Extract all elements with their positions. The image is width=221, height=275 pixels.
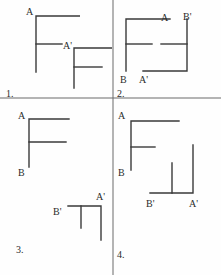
- figure-drawing: [0, 0, 221, 275]
- panel-3-label-a-prime: A': [96, 192, 105, 202]
- panel-number-4: 4.: [117, 250, 125, 260]
- panel-1-shape-a-prime: [74, 48, 112, 88]
- panel-1-label-a: A: [26, 7, 33, 17]
- worksheet-figure: A A' A B' B A' A B B' A' A B B' A' 1. 2.…: [0, 0, 221, 275]
- panel-1-label-a-prime: A': [63, 41, 72, 51]
- panel-1-shapes: [36, 16, 112, 88]
- panel-4-label-b: B: [118, 168, 125, 178]
- panel-3-label-b-prime: B': [53, 207, 61, 217]
- panel-2-shapes: [126, 19, 187, 71]
- panel-2-label-a-prime: A': [139, 75, 148, 85]
- panel-number-3: 3.: [16, 245, 24, 255]
- panel-3-shape-a: [29, 119, 69, 167]
- panel-2-shape-a: [126, 19, 170, 71]
- panel-4-label-b-prime: B': [146, 199, 154, 209]
- panel-2-label-b: B: [120, 75, 127, 85]
- panel-4-label-a: A: [118, 111, 125, 121]
- panel-3-shapes: [29, 119, 101, 240]
- panel-2-label-b-prime: B': [183, 12, 191, 22]
- panel-2-label-a: A: [161, 13, 168, 23]
- panel-dividers: [0, 0, 221, 275]
- panel-2-shape-a-prime: [143, 19, 187, 71]
- panel-3-label-b: B: [18, 168, 25, 178]
- panel-number-2: 2.: [117, 89, 125, 99]
- panel-4-shapes: [131, 121, 193, 193]
- panel-number-1: 1.: [6, 89, 14, 99]
- panel-3-shape-a-prime: [68, 206, 101, 240]
- panel-3-label-a: A: [18, 111, 25, 121]
- panel-4-label-a-prime: A': [189, 199, 198, 209]
